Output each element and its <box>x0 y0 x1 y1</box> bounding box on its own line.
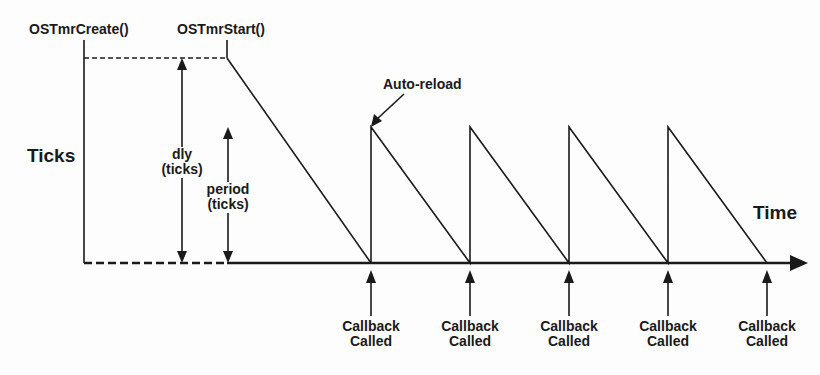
auto-reload-label: Auto-reload <box>383 77 462 92</box>
period-label-line1: period <box>200 182 256 197</box>
start-call-label: OSTmrStart() <box>177 22 265 37</box>
callback-label-line2: Called <box>524 334 614 349</box>
callback-label-line2: Called <box>326 334 416 349</box>
y-axis-label: Ticks <box>27 146 75 167</box>
callback-label-line1: Callback <box>623 319 713 334</box>
callback-arrows <box>366 270 772 316</box>
callback-label-line2: Called <box>722 334 812 349</box>
x-axis-label: Time <box>753 203 797 224</box>
timer-diagram: OSTmrCreate() OSTmrStart() Ticks Time dl… <box>0 0 820 375</box>
period-sawtooth <box>371 127 767 263</box>
callback-label-line1: Callback <box>722 319 812 334</box>
callback-label-line1: Callback <box>425 319 515 334</box>
callback-label-line1: Callback <box>326 319 416 334</box>
create-call-label: OSTmrCreate() <box>29 22 129 37</box>
dly-label-line1: dly <box>159 147 205 162</box>
dly-label: dly (ticks) <box>159 147 205 178</box>
time-axis-arrowhead <box>790 255 808 271</box>
dly-label-line2: (ticks) <box>159 162 205 177</box>
callback-label-line1: Callback <box>524 319 614 334</box>
initial-dly-ramp <box>227 58 371 263</box>
callback-label-5: Callback Called <box>722 319 812 350</box>
callback-label-line2: Called <box>425 334 515 349</box>
callback-label-3: Callback Called <box>524 319 614 350</box>
period-label: period (ticks) <box>200 182 256 213</box>
callback-label-line2: Called <box>623 334 713 349</box>
callback-label-1: Callback Called <box>326 319 416 350</box>
callback-label-2: Callback Called <box>425 319 515 350</box>
auto-reload-pointer <box>376 94 404 120</box>
callback-label-4: Callback Called <box>623 319 713 350</box>
period-label-line2: (ticks) <box>200 197 256 212</box>
